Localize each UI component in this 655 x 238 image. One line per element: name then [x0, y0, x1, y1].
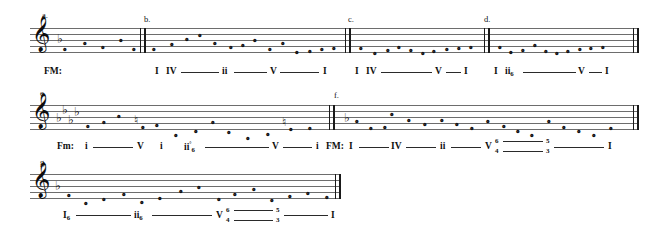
barline: [329, 105, 330, 130]
roman-numeral-f-I2: I: [608, 142, 612, 152]
figure-6: 6: [139, 214, 142, 221]
barline: [140, 28, 141, 53]
notehead: 𝅝: [421, 48, 425, 57]
notehead: 𝅝: [117, 111, 121, 120]
notehead: 𝅝: [390, 109, 394, 118]
flat-accidental-icon: ♭: [344, 112, 350, 124]
notehead: 𝅝: [101, 42, 105, 51]
analysis-dash: [406, 147, 436, 148]
staff-line: [30, 198, 340, 199]
notehead: 𝅝: [102, 117, 106, 126]
key-label-fm-major: FM:: [44, 67, 62, 77]
notehead: 𝅝: [233, 189, 237, 198]
notehead: 𝅝: [383, 122, 387, 131]
notehead: 𝅝: [509, 47, 513, 56]
notehead: 𝅝: [355, 116, 359, 125]
roman-numeral-e-i2: i: [160, 142, 163, 152]
notehead: 𝅝: [369, 123, 373, 132]
notehead: 𝅝: [83, 38, 87, 47]
notehead: 𝅝: [246, 133, 250, 142]
notehead: 𝅝: [589, 43, 593, 52]
flat-accidental-icon: ♭: [55, 180, 61, 192]
roman-numeral-e-ii-dim6: ii°6: [184, 142, 195, 154]
notehead: 𝅝: [592, 130, 596, 139]
notehead: 𝅝: [198, 30, 202, 39]
figured-bass-4: 4: [495, 148, 499, 155]
analysis-dash: [446, 72, 461, 73]
roman-numeral-e-V: V: [137, 142, 144, 152]
notehead: 𝅝: [470, 123, 474, 132]
roman-numeral-e-i: i: [85, 142, 88, 152]
notehead: 𝅝: [197, 182, 201, 191]
staff-line: [30, 192, 340, 193]
flat-accidental-icon: ♭: [56, 112, 62, 124]
analysis-dash: [152, 215, 212, 216]
roman-numeral-e-i3: i: [316, 142, 319, 152]
notehead: 𝅝: [469, 42, 473, 51]
notehead: 𝅝: [295, 47, 299, 56]
notehead: 𝅝: [155, 120, 159, 129]
notehead: 𝅝: [67, 190, 71, 199]
notehead: 𝅝: [521, 45, 525, 54]
notehead: 𝅝: [241, 40, 245, 49]
roman-numeral-c-I2: I: [464, 67, 468, 77]
exercise-label-g: g.: [40, 157, 46, 167]
analysis-dash: [234, 72, 267, 73]
notehead: 𝅝: [308, 123, 312, 132]
notehead: 𝅝: [152, 44, 156, 53]
exercise-label-a: a.: [42, 10, 48, 20]
notehead: 𝅝: [457, 43, 461, 52]
key-label-fm-major-2: FM:: [326, 142, 344, 152]
notehead: 𝅝: [179, 186, 183, 195]
barline: [637, 105, 639, 130]
notehead: 𝅝: [566, 46, 570, 55]
notehead: 𝅝: [407, 115, 411, 124]
roman-numeral-b-V: V: [270, 67, 277, 77]
roman-numeral-c-I: I: [355, 67, 359, 77]
figured-bass-6: 6: [495, 138, 499, 145]
notehead: 𝅝: [266, 129, 270, 138]
notehead: 𝅝: [306, 188, 310, 197]
figure-dash-upper: [234, 210, 273, 211]
notehead: 𝅝: [268, 44, 272, 53]
analysis-dash: [381, 72, 432, 73]
notehead: 𝅝: [359, 43, 363, 52]
roman-numeral-d-I2: I: [605, 67, 609, 77]
roman-numeral-c-IV: IV: [366, 67, 377, 77]
exercise-label-b: b.: [144, 14, 150, 24]
roman-numeral-g-I: I: [331, 211, 335, 221]
figure-dash-lower: [234, 220, 273, 221]
exercise-label-d: d.: [484, 14, 490, 24]
roman-numeral-f-IV: IV: [391, 142, 402, 152]
notehead: 𝅝: [332, 43, 336, 52]
notehead: 𝅝: [530, 130, 534, 139]
notehead: 𝅝: [122, 189, 126, 198]
notehead: 𝅝: [373, 48, 377, 57]
exercise-label-f: f.: [334, 90, 339, 100]
notehead: 𝅝: [288, 191, 292, 200]
barline: [144, 28, 146, 53]
flat-accidental-icon: ♭: [57, 33, 63, 45]
notehead: 𝅝: [158, 193, 162, 202]
notehead: 𝅝: [86, 121, 90, 130]
roman-numeral-f-I: I: [349, 142, 353, 152]
notehead: 𝅝: [140, 197, 144, 206]
notehead: 𝅝: [440, 115, 444, 124]
flat-accidental-icon: ♭: [62, 104, 68, 116]
treble-clef-icon: 𝄞: [32, 95, 50, 126]
exercise-label-e: e.: [40, 88, 46, 98]
barline: [335, 174, 336, 199]
notehead: 𝅝: [229, 42, 233, 51]
figured-bass-3: 3: [546, 148, 550, 155]
notehead: 𝅝: [498, 42, 502, 51]
notehead: 𝅝: [320, 44, 324, 53]
analysis-dash: [589, 72, 602, 73]
notehead: 𝅝: [185, 34, 189, 43]
notehead: 𝅝: [253, 35, 257, 44]
notehead: 𝅝: [270, 195, 274, 204]
barline: [633, 28, 634, 53]
barline: [339, 174, 341, 199]
notehead: 𝅝: [227, 127, 231, 136]
staff-line: [30, 186, 340, 187]
notehead: 𝅝: [170, 39, 174, 48]
